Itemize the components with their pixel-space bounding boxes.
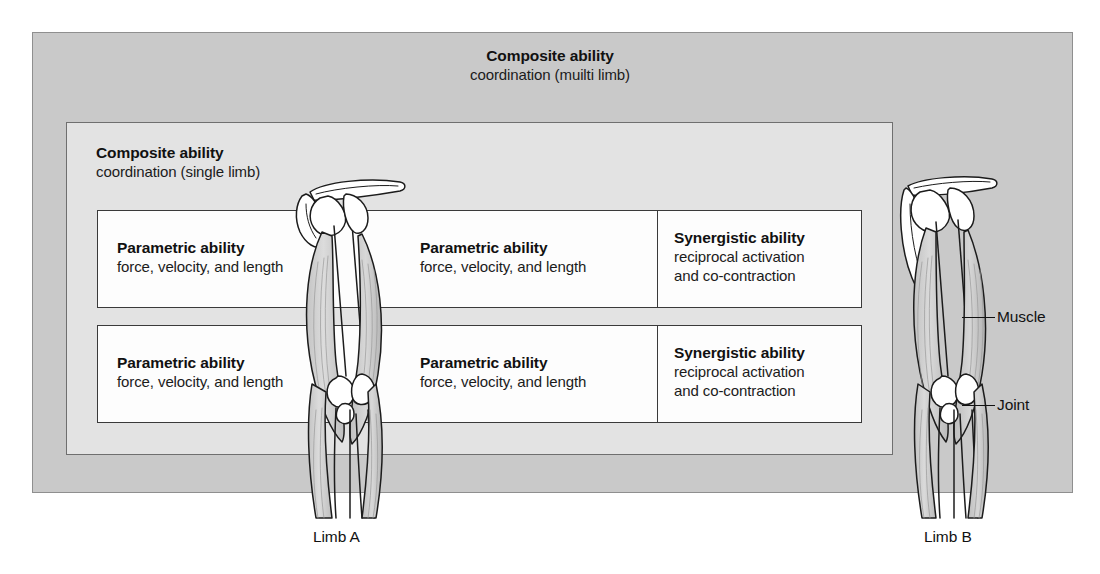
- row-2-synergistic-ability: Synergistic ability reciprocal activatio…: [674, 343, 805, 400]
- row-1-synergistic-subtitle-line-1: reciprocal activation: [674, 247, 805, 266]
- row-2-parametric-a-subtitle: force, velocity, and length: [117, 372, 283, 391]
- row-2-synergistic-divider: [657, 326, 658, 422]
- composite-multi-limb-subtitle: coordination (muilti limb): [0, 65, 1100, 84]
- row-2-parametric-ability-b: Parametric ability force, velocity, and …: [420, 353, 586, 391]
- diagram-canvas: Composite ability coordination (muilti l…: [0, 0, 1100, 574]
- row-1-synergistic-subtitle-line-2: and co-contraction: [674, 266, 805, 285]
- row-2-parametric-a-title: Parametric ability: [117, 353, 283, 372]
- row-2-synergistic-subtitle-line-1: reciprocal activation: [674, 362, 805, 381]
- row-2-synergistic-subtitle-line-2: and co-contraction: [674, 381, 805, 400]
- row-1-parametric-b-title: Parametric ability: [420, 238, 586, 257]
- muscle-annotation-label: Muscle: [997, 308, 1046, 326]
- muscle-leader-line: [962, 317, 995, 318]
- row-2-parametric-ability-a: Parametric ability force, velocity, and …: [117, 353, 283, 391]
- row-1-synergistic-divider: [657, 211, 658, 307]
- joint-leader-line: [962, 405, 995, 406]
- composite-multi-limb-text: Composite ability coordination (muilti l…: [0, 46, 1100, 84]
- limb-b-label: Limb B: [924, 528, 972, 546]
- joint-annotation-label: Joint: [997, 396, 1029, 414]
- composite-multi-limb-title: Composite ability: [0, 46, 1100, 65]
- row-1-parametric-b-subtitle: force, velocity, and length: [420, 257, 586, 276]
- composite-single-limb-text: Composite ability coordination (single l…: [96, 143, 260, 181]
- row-1-parametric-ability-b: Parametric ability force, velocity, and …: [420, 238, 586, 276]
- row-2-parametric-b-subtitle: force, velocity, and length: [420, 372, 586, 391]
- limb-a-label: Limb A: [313, 528, 360, 546]
- row-1-parametric-a-title: Parametric ability: [117, 238, 283, 257]
- row-2-parametric-b-title: Parametric ability: [420, 353, 586, 372]
- row-2-synergistic-title: Synergistic ability: [674, 343, 805, 362]
- limb-a-illustration: [276, 170, 436, 520]
- row-1-parametric-ability-a: Parametric ability force, velocity, and …: [117, 238, 283, 276]
- row-1-synergistic-title: Synergistic ability: [674, 228, 805, 247]
- row-1-parametric-a-subtitle: force, velocity, and length: [117, 257, 283, 276]
- limb-b-illustration: [898, 170, 1028, 520]
- composite-single-limb-subtitle: coordination (single limb): [96, 162, 260, 181]
- row-1-synergistic-ability: Synergistic ability reciprocal activatio…: [674, 228, 805, 285]
- composite-single-limb-title: Composite ability: [96, 143, 260, 162]
